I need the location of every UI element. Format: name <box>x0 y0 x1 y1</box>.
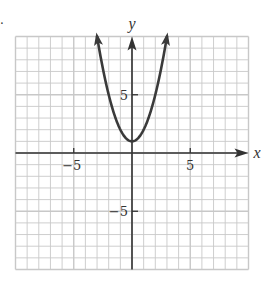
coordinate-plane: . x y −5 5 5 −5 <box>0 0 261 289</box>
x-tick-label-pos5: 5 <box>186 158 194 173</box>
y-axis-label: y <box>126 15 136 33</box>
problem-marker: . <box>0 13 4 27</box>
x-tick-label-neg5: −5 <box>62 158 81 173</box>
y-tick-label-neg5: −5 <box>109 204 128 219</box>
x-axis-label: x <box>253 144 261 161</box>
y-tick-label-pos5: 5 <box>120 88 128 103</box>
